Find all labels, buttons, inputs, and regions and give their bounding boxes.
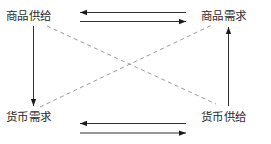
diagram-canvas: 商品供给 商品需求 货币需求 货币供给 [0,0,271,144]
node-label-money-demand: 货币需求 [6,111,52,124]
node-label-commodity-demand: 商品需求 [201,10,247,23]
dashed-diagonal-topleft-bottomright [47,26,216,104]
node-label-money-supply: 货币供给 [201,111,247,124]
node-label-commodity-supply: 商品供给 [6,10,52,23]
dashed-diagonal-bottomleft-topright [40,25,212,107]
